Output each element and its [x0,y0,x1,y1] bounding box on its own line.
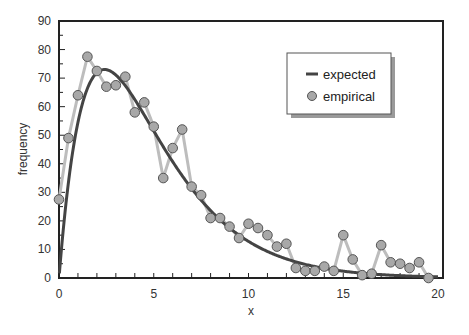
legend: expected empirical [287,53,395,118]
empirical-point [329,266,339,276]
empirical-point [215,213,225,223]
empirical-point [386,257,396,267]
y-tick-label: 80 [38,43,52,57]
chart: 0102030405060708090 05101520 x frequency… [0,0,469,335]
empirical-point [149,122,159,132]
empirical-point [348,255,358,265]
y-tick-label: 60 [38,100,52,114]
x-tick-label: 10 [242,287,256,301]
empirical-point [272,242,282,252]
empirical-point [357,270,367,280]
empirical-point [83,52,93,62]
empirical-point [92,66,102,76]
empirical-point [234,233,244,243]
y-tick-label: 50 [38,128,52,142]
x-tick-label: 0 [56,287,63,301]
empirical-point [244,219,254,229]
empirical-point [301,266,311,276]
empirical-point [310,266,320,276]
y-tick-label: 20 [38,214,52,228]
y-tick-label: 90 [38,14,52,28]
empirical-point [54,195,64,205]
y-tick-label: 30 [38,185,52,199]
empirical-point [414,257,424,267]
x-axis-label: x [248,304,254,318]
empirical-point [121,72,131,82]
y-tick-label: 40 [38,157,52,171]
empirical-point [263,230,273,240]
x-tick-label: 15 [337,287,351,301]
empirical-point [367,269,377,279]
empirical-point [168,143,178,153]
y-tick-label: 70 [38,71,52,85]
empirical-point [130,108,140,118]
empirical-point [395,259,405,269]
x-tick-label: 20 [431,287,445,301]
empirical-point [424,273,434,283]
empirical-point [376,240,386,250]
x-tick-label: 5 [150,287,157,301]
empirical-point [102,82,112,92]
empirical-point [73,90,83,100]
legend-empirical-label: empirical [323,89,375,104]
y-tick-label: 0 [44,271,51,285]
empirical-point [64,133,74,143]
legend-box [287,53,391,114]
empirical-point [282,239,292,249]
empirical-point [111,80,121,90]
empirical-point [405,263,415,273]
empirical-point [196,190,206,200]
empirical-point [187,182,197,192]
empirical-point [139,98,149,108]
empirical-point [225,222,235,232]
y-axis-label: frequency [16,123,30,176]
y-tick-label: 10 [38,242,52,256]
empirical-point [177,125,187,135]
legend-expected-label: expected [323,67,376,82]
empirical-point [158,173,168,183]
legend-empirical-marker-icon [308,92,317,101]
empirical-point [338,230,348,240]
empirical-point [206,213,216,223]
empirical-point [291,263,301,273]
empirical-point [320,262,330,272]
empirical-point [253,223,263,233]
